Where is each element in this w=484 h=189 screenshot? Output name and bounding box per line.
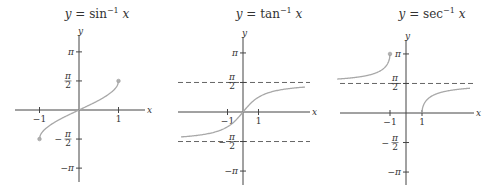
y-tick-label: π2 <box>64 71 72 90</box>
x-tick-label: 1 <box>256 116 262 126</box>
chart-title: y = tan−1 x <box>235 6 303 21</box>
svg-text:−: − <box>218 137 226 147</box>
y-tick-label: π2− <box>54 129 72 148</box>
y-axis-label: y <box>77 26 84 36</box>
chart-title: y = sin−1 x <box>64 6 130 21</box>
arctan-graph: y = tan−1 xxy−11ππ2π2−−π <box>178 6 317 185</box>
y-tick-label: π <box>67 47 75 57</box>
y-tick-label: π <box>394 49 402 59</box>
svg-text:2: 2 <box>229 141 235 151</box>
y-tick-label: π2− <box>381 133 399 152</box>
y-tick-label: π <box>231 48 239 58</box>
x-tick-label: −1 <box>221 116 234 126</box>
y-axis-label: y <box>241 28 248 38</box>
svg-text:2: 2 <box>229 81 235 91</box>
endpoint-marker <box>38 137 42 141</box>
svg-text:2: 2 <box>392 142 398 152</box>
x-tick-label: 1 <box>116 114 122 124</box>
svg-text:2: 2 <box>65 138 71 148</box>
x-axis-label: x <box>147 105 152 115</box>
endpoint-marker <box>117 79 121 83</box>
x-axis-label: x <box>476 108 481 118</box>
y-tick-label: π2 <box>391 73 399 92</box>
endpoint-marker <box>388 52 392 56</box>
y-tick-label: −π <box>61 163 76 173</box>
y-tick-label: −π <box>388 167 403 177</box>
inverse-trig-figure: y = sin−1 xxy−11ππ2π2−−π y = tan−1 xxy−1… <box>0 0 484 189</box>
arcsec-left-curve <box>337 54 390 79</box>
svg-text:2: 2 <box>65 80 71 90</box>
chart-title: y = sec−1 x <box>398 6 466 21</box>
x-tick-label: −1 <box>33 114 46 124</box>
svg-text:2: 2 <box>392 82 398 92</box>
arcsec-graph: y = sec−1 xxy−11ππ2π2−−π <box>337 6 481 185</box>
arcsin-graph: y = sin−1 xxy−11ππ2π2−−π <box>15 6 152 182</box>
y-tick-label: π2− <box>218 132 236 151</box>
x-axis-label: x <box>312 107 317 117</box>
svg-text:−: − <box>54 134 62 144</box>
arcsec-right-curve <box>422 88 470 113</box>
x-tick-label: 1 <box>419 117 425 127</box>
svg-text:−: − <box>381 138 389 148</box>
x-tick-label: −1 <box>383 117 396 127</box>
y-axis-label: y <box>404 31 411 41</box>
y-tick-label: −π <box>225 166 240 176</box>
y-tick-label: π2 <box>228 72 236 91</box>
